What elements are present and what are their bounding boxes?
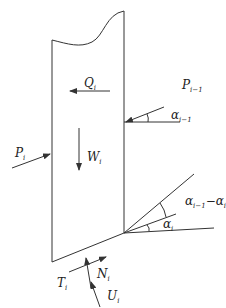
label-alpha-diff: αi−1−αi [185, 194, 226, 210]
label-p: Pi [14, 146, 25, 162]
label-alpha-prev: αi−1 [171, 108, 192, 124]
angle-arc-alpha-diff [160, 203, 166, 217]
label-w: Wi [87, 150, 102, 166]
slice-body [52, 11, 124, 262]
force-p-prev-arrow [126, 107, 164, 122]
slice-top-curve [52, 11, 124, 45]
label-n: Ni [96, 267, 110, 283]
line-upper-inclined [124, 174, 194, 233]
angle-arc-alpha [147, 225, 149, 231]
label-p-prev: Pi−1 [181, 78, 203, 94]
slice-force-diagram: Qi Wi Pi−1 αi−1 Pi αi−1−αi αi Ti Ni Ui [0, 0, 226, 308]
slice-base [52, 233, 124, 262]
angle-arc-alpha-prev [147, 114, 148, 122]
force-u-arrow [91, 282, 100, 307]
force-n-arrow [86, 258, 91, 288]
label-q: Qi [84, 76, 96, 92]
label-alpha: αi [163, 217, 173, 233]
label-t: Ti [57, 276, 67, 292]
label-u: Ui [107, 289, 119, 305]
